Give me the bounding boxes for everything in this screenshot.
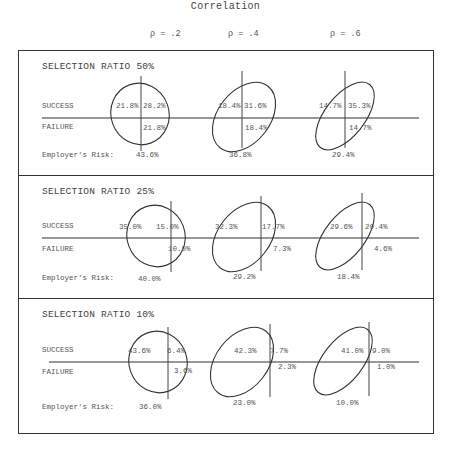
success-left-value: 41.0% (341, 347, 364, 355)
failure-label: FAILURE (42, 368, 74, 376)
success-label: SUCCESS (42, 102, 74, 110)
failure-label: FAILURE (42, 245, 74, 253)
panel-selection-ratio-50: SELECTION RATIO 50% SUCCESS FAILURE Empl… (19, 51, 433, 175)
failure-label: FAILURE (42, 123, 74, 131)
success-label: SUCCESS (42, 222, 74, 230)
success-right-value: 35.3% (348, 102, 371, 110)
ellipse-rho-06 (305, 192, 386, 280)
risk-value: 43.6% (136, 151, 159, 159)
risk-value: 29.2% (233, 273, 256, 281)
success-left-value: 35.0% (119, 223, 142, 231)
success-label: SUCCESS (42, 346, 74, 354)
success-right-value: 17.7% (262, 223, 285, 231)
risk-label: Employer's Risk: (42, 403, 114, 411)
failure-right-value: 10.0% (168, 245, 191, 253)
ellipse-plot (19, 299, 435, 434)
success-left-value: 29.6% (330, 223, 353, 231)
risk-value: 40.0% (138, 275, 161, 283)
ellipse-rho-04 (200, 70, 289, 163)
success-right-value: 28.2% (143, 102, 166, 110)
diagram-frame: SELECTION RATIO 50% SUCCESS FAILURE Empl… (18, 50, 434, 434)
panel-selection-ratio-10: SELECTION RATIO 10% SUCCESS FAILURE Empl… (19, 298, 433, 433)
success-left-value: 14.7% (319, 102, 342, 110)
success-left-value: 18.4% (218, 102, 241, 110)
ellipse-rho-06 (303, 317, 384, 405)
failure-right-value: 2.3% (278, 363, 296, 371)
success-right-value: 9.0% (372, 347, 390, 355)
ellipse-rho-02 (102, 75, 178, 153)
success-right-value: 20.4% (365, 223, 388, 231)
risk-label: Employer's Risk: (42, 274, 114, 282)
success-right-value: 31.6% (244, 102, 267, 110)
risk-value: 23.0% (233, 399, 256, 407)
rho-label-02: ρ = .2 (150, 29, 181, 39)
success-left-value: 42.3% (234, 347, 257, 355)
failure-right-value: 18.4% (245, 124, 268, 132)
success-left-value: 21.8% (116, 102, 139, 110)
rho-label-04: ρ = .4 (228, 29, 259, 39)
success-right-value: 7.7% (270, 347, 288, 355)
success-left-value: 43.6% (128, 347, 151, 355)
failure-right-value: 3.6% (174, 367, 192, 375)
ellipse-rho-04 (200, 190, 289, 283)
success-right-value: 15.0% (156, 223, 179, 231)
failure-right-value: 4.6% (374, 245, 392, 253)
risk-label: Employer's Risk: (42, 151, 114, 159)
failure-right-value: 1.0% (377, 363, 395, 371)
failure-right-value: 21.8% (143, 124, 166, 132)
rho-label-06: ρ = .6 (330, 29, 361, 39)
ellipse-rho-02 (118, 197, 194, 275)
failure-right-value: 7.3% (273, 245, 291, 253)
risk-value: 29.4% (332, 151, 355, 159)
success-right-value: 6.4% (167, 347, 185, 355)
diagram-title: Correlation (0, 1, 451, 12)
risk-value: 10.0% (336, 399, 359, 407)
risk-value: 36.8% (229, 151, 252, 159)
risk-value: 36.0% (139, 403, 162, 411)
risk-value: 18.4% (337, 273, 360, 281)
panel-selection-ratio-25: SELECTION RATIO 25% SUCCESS FAILURE Empl… (19, 175, 433, 298)
success-left-value: 32.3% (215, 223, 238, 231)
failure-right-value: 14.7% (349, 124, 372, 132)
